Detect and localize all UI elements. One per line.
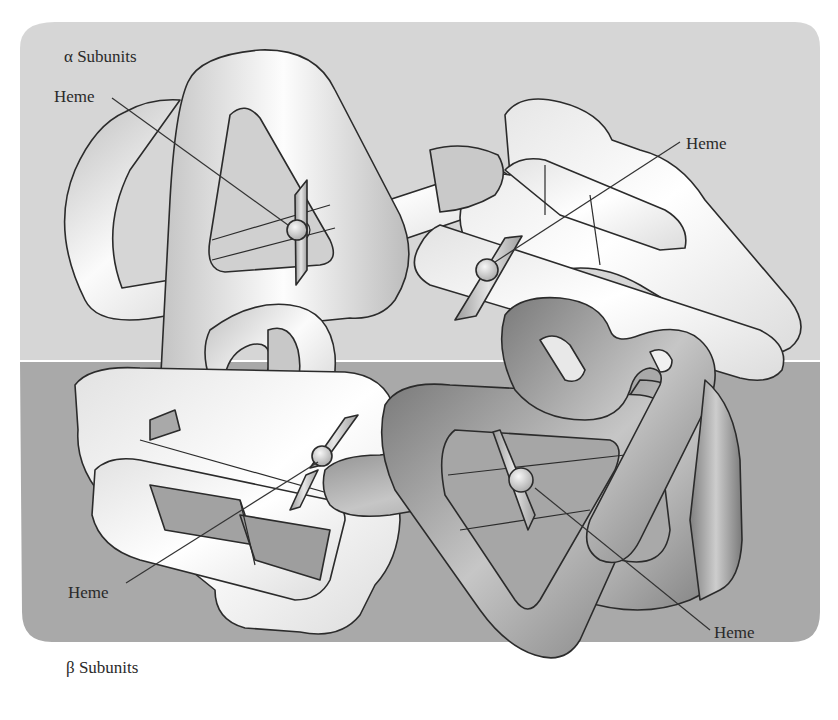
hemoglobin-diagram bbox=[0, 0, 838, 720]
heme-label-alpha-left: Heme bbox=[54, 88, 95, 105]
heme-label-beta-left: Heme bbox=[68, 584, 109, 601]
beta-subunits-label: β Subunits bbox=[66, 659, 138, 676]
heme-label-alpha-right: Heme bbox=[686, 135, 727, 152]
heme-label-beta-right: Heme bbox=[714, 624, 755, 641]
alpha-subunits-label: α Subunits bbox=[64, 48, 137, 65]
